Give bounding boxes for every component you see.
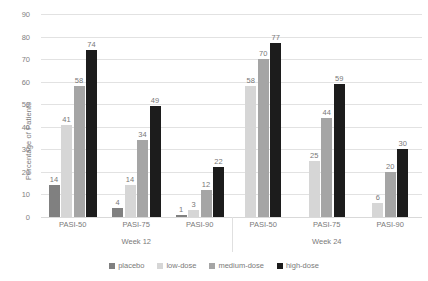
- bar-high-dose-week-12-pasi-90[interactable]: 22: [213, 167, 224, 217]
- category-label-pasi-90: PASI-90: [186, 220, 213, 229]
- bar-placebo-week-12-pasi-50[interactable]: 14: [49, 185, 60, 217]
- legend-item-high-dose[interactable]: high-dose: [277, 261, 319, 270]
- bar-value-label: 49: [151, 96, 159, 105]
- legend-label: high-dose: [286, 261, 319, 270]
- legend-swatch-placebo: [109, 263, 115, 269]
- bar-low-dose-week-24-pasi-90[interactable]: 6: [372, 203, 383, 217]
- chart-legend: placebolow-dosemedium-dosehigh-dose: [0, 261, 428, 270]
- y-axis-tick-20: 20: [6, 167, 30, 176]
- period-label-week-24: Week 24: [312, 237, 341, 246]
- bar-value-label: 58: [247, 76, 255, 85]
- gridline-20: [41, 172, 422, 173]
- bar-medium-dose-week-24-pasi-75[interactable]: 44: [321, 118, 332, 217]
- y-axis-tick-0: 0: [6, 213, 30, 222]
- legend-swatch-medium-dose: [209, 263, 215, 269]
- bar-low-dose-week-12-pasi-90[interactable]: 3: [188, 210, 199, 217]
- y-axis-tick-40: 40: [6, 122, 30, 131]
- bar-value-label: 14: [50, 175, 58, 184]
- bar-low-dose-week-12-pasi-50[interactable]: 41: [61, 125, 72, 217]
- gridline-50: [41, 104, 422, 105]
- legend-label: medium-dose: [218, 261, 263, 270]
- category-label-pasi-50: PASI-50: [250, 220, 277, 229]
- legend-label: placebo: [118, 261, 144, 270]
- gridline-10: [41, 194, 422, 195]
- bar-value-label: 3: [191, 200, 195, 209]
- legend-swatch-low-dose: [157, 263, 163, 269]
- category-axis: PASI-50PASI-75PASI-90Week 12PASI-50PASI-…: [41, 217, 422, 257]
- category-label-pasi-75: PASI-75: [123, 220, 150, 229]
- y-axis-tick-80: 80: [6, 32, 30, 41]
- bar-low-dose-week-12-pasi-75[interactable]: 14: [125, 185, 136, 217]
- y-axis-tick-90: 90: [6, 10, 30, 19]
- bar-medium-dose-week-12-pasi-90[interactable]: 12: [201, 190, 212, 217]
- bar-medium-dose-week-24-pasi-90[interactable]: 20: [385, 172, 396, 217]
- bar-value-label: 30: [399, 139, 407, 148]
- bar-low-dose-week-24-pasi-50[interactable]: 58: [245, 86, 256, 217]
- bar-high-dose-week-12-pasi-50[interactable]: 74: [86, 50, 97, 217]
- y-axis-tick-10: 10: [6, 190, 30, 199]
- category-label-pasi-50: PASI-50: [59, 220, 86, 229]
- bar-placebo-week-12-pasi-75[interactable]: 4: [112, 208, 123, 217]
- plot-area: 9080706050403020100144158744143449131222…: [41, 14, 422, 217]
- y-axis-tick-70: 70: [6, 55, 30, 64]
- bar-value-label: 41: [62, 115, 70, 124]
- bar-value-label: 22: [214, 157, 222, 166]
- legend-label: low-dose: [166, 261, 196, 270]
- category-label-pasi-90: PASI-90: [377, 220, 404, 229]
- gridline-40: [41, 127, 422, 128]
- bar-high-dose-week-24-pasi-90[interactable]: 30: [397, 149, 408, 217]
- bar-value-label: 25: [310, 151, 318, 160]
- gridline-30: [41, 149, 422, 150]
- period-separator: [232, 217, 233, 252]
- bar-medium-dose-week-12-pasi-50[interactable]: 58: [74, 86, 85, 217]
- y-axis-tick-30: 30: [6, 145, 30, 154]
- y-axis-tick-60: 60: [6, 77, 30, 86]
- bar-chart: Percentage of Patients 90807060504030201…: [0, 0, 428, 281]
- gridline-60: [41, 82, 422, 83]
- bar-value-label: 12: [202, 180, 210, 189]
- bar-high-dose-week-12-pasi-75[interactable]: 49: [150, 106, 161, 217]
- bar-value-label: 74: [87, 40, 95, 49]
- bar-value-label: 6: [376, 193, 380, 202]
- legend-item-medium-dose[interactable]: medium-dose: [209, 261, 263, 270]
- period-label-week-12: Week 12: [122, 237, 151, 246]
- bar-value-label: 14: [126, 175, 134, 184]
- bar-medium-dose-week-12-pasi-75[interactable]: 34: [137, 140, 148, 217]
- bar-value-label: 58: [75, 76, 83, 85]
- legend-item-placebo[interactable]: placebo: [109, 261, 144, 270]
- bar-high-dose-week-24-pasi-50[interactable]: 77: [270, 43, 281, 217]
- bar-high-dose-week-24-pasi-75[interactable]: 59: [334, 84, 345, 217]
- gridline-90: [41, 14, 422, 15]
- bar-medium-dose-week-24-pasi-50[interactable]: 70: [258, 59, 269, 217]
- bar-value-label: 59: [335, 74, 343, 83]
- bar-value-label: 4: [115, 198, 119, 207]
- gridline-80: [41, 37, 422, 38]
- bar-value-label: 20: [386, 162, 394, 171]
- bar-low-dose-week-24-pasi-75[interactable]: 25: [309, 161, 320, 217]
- bar-value-label: 44: [323, 108, 331, 117]
- legend-swatch-high-dose: [277, 263, 283, 269]
- bar-value-label: 77: [272, 33, 280, 42]
- bar-value-label: 1: [179, 205, 183, 214]
- gridline-70: [41, 59, 422, 60]
- category-label-pasi-75: PASI-75: [313, 220, 340, 229]
- legend-item-low-dose[interactable]: low-dose: [157, 261, 196, 270]
- bar-value-label: 70: [259, 49, 267, 58]
- bar-value-label: 34: [138, 130, 146, 139]
- y-axis-tick-50: 50: [6, 100, 30, 109]
